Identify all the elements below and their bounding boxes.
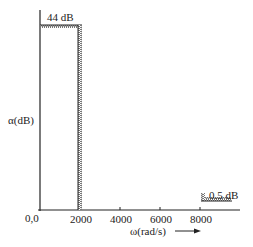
edge-2000-hatched — [78, 25, 82, 210]
x-tick-2000: 2000 — [70, 214, 92, 225]
label-44db: 44 dB — [47, 12, 74, 23]
x-axis-label: ω(rad/s) — [130, 226, 166, 237]
x-tick-8000: 8000 — [190, 214, 212, 225]
label-0-5db: 0.5 dB — [209, 190, 238, 201]
x-tick-4000: 4000 — [110, 214, 132, 225]
x-tick-6000: 6000 — [150, 214, 172, 225]
y-axis-label: α(dB) — [8, 115, 34, 126]
passband-limit-44db — [40, 25, 82, 28]
attenuation-chart — [0, 0, 253, 247]
origin-label: 0,0 — [25, 213, 39, 224]
